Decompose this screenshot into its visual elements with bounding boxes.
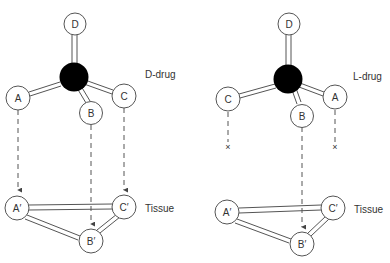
atom-a-label: A bbox=[15, 93, 22, 104]
atom-b-label: B bbox=[88, 108, 95, 119]
site-a-prime-label: A′ bbox=[223, 207, 232, 218]
atom-c-label: C bbox=[120, 91, 127, 102]
site-c-prime-label: C′ bbox=[328, 203, 337, 214]
central-carbon bbox=[274, 65, 303, 94]
d-drug-projections bbox=[18, 108, 124, 224]
l-drug-label: L-drug bbox=[353, 71, 382, 82]
no-bind-mark-a: × bbox=[332, 142, 337, 152]
chirality-diagram: D A B C D-drug A′ C′ B′ Tissue bbox=[0, 0, 390, 263]
d-drug-label: D-drug bbox=[145, 69, 176, 80]
atom-a-label: A bbox=[332, 92, 339, 103]
d-tissue-label: Tissue bbox=[145, 203, 175, 214]
site-b-prime-label: B′ bbox=[87, 236, 96, 247]
site-a-prime-label: A′ bbox=[13, 203, 22, 214]
atom-d-label: D bbox=[285, 19, 292, 30]
d-drug-tissue: A′ C′ B′ Tissue bbox=[5, 195, 175, 253]
atom-d-label: D bbox=[71, 19, 78, 30]
l-drug-molecule: × × D C B A L-drug bbox=[216, 13, 382, 227]
d-drug-molecule: D A B C D-drug bbox=[6, 13, 176, 224]
l-drug-projections bbox=[228, 110, 335, 227]
l-tissue-label: Tissue bbox=[354, 204, 384, 215]
l-drug-tissue: A′ C′ B′ Tissue bbox=[215, 196, 384, 256]
atom-c-label: C bbox=[224, 94, 231, 105]
no-bind-mark-c: × bbox=[225, 142, 230, 152]
site-b-prime-label: B′ bbox=[298, 239, 307, 250]
site-c-prime-label: C′ bbox=[119, 202, 128, 213]
atom-b-label: B bbox=[299, 111, 306, 122]
central-carbon bbox=[60, 63, 89, 92]
